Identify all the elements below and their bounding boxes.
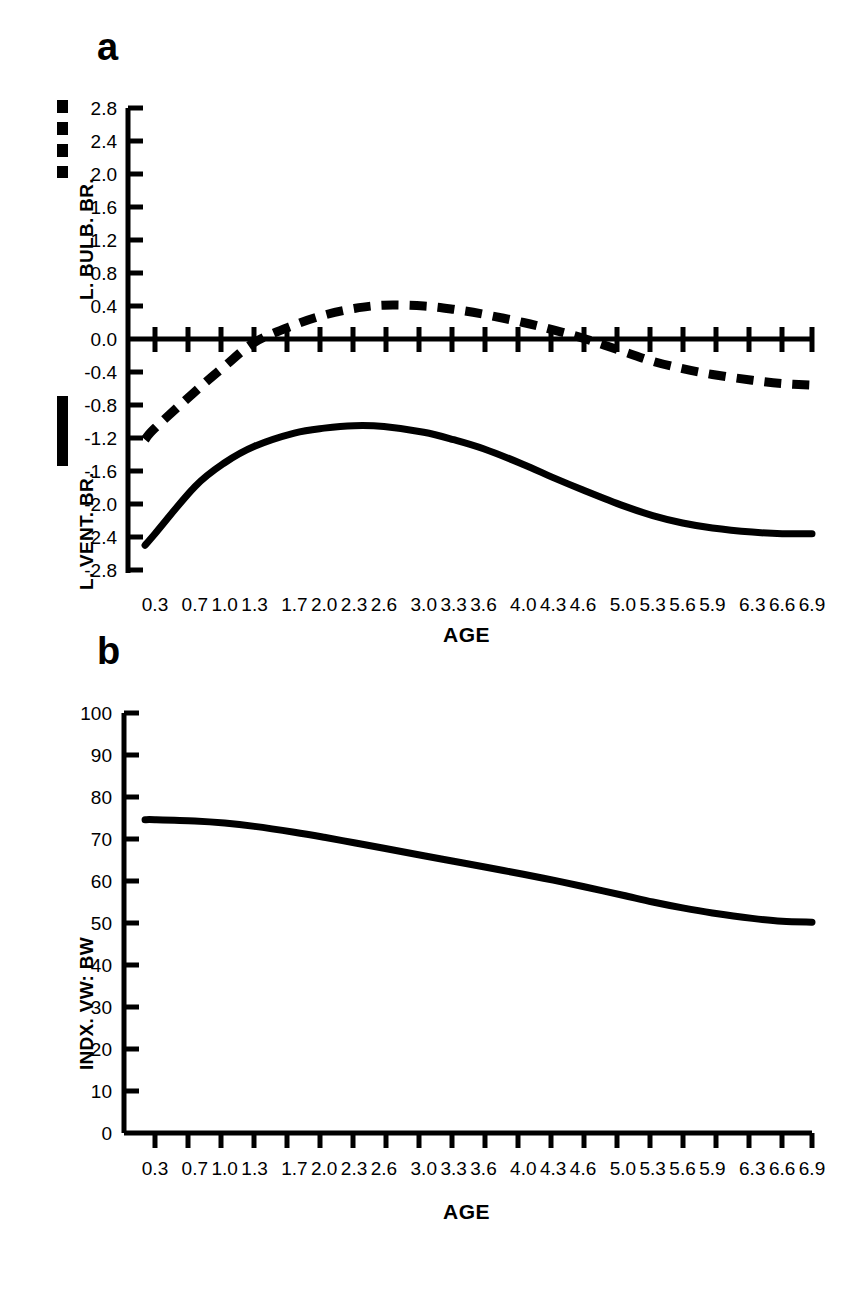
panel-b-xlabel: AGE: [443, 1200, 490, 1224]
figure-container: a L. BULB. BR. L. VENT. BR. 2.8 2.4 2.0 …: [0, 0, 851, 1295]
panel-b-plot: [0, 0, 851, 1295]
series-line-indx-vw-bw: [145, 820, 812, 923]
panel-b-xtick-20: 6.9: [788, 1158, 836, 1180]
